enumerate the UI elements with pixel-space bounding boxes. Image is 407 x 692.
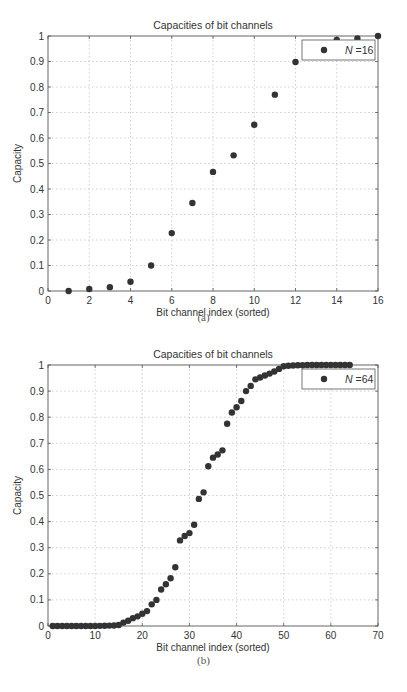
x-tick-label: 10 xyxy=(90,630,102,641)
data-point xyxy=(65,288,71,294)
data-point xyxy=(233,404,239,410)
y-tick-label: 0.9 xyxy=(30,386,44,397)
data-point xyxy=(189,200,195,206)
legend-marker xyxy=(321,376,327,382)
x-tick-label: 6 xyxy=(169,295,175,306)
chart-b: Capacities of bit channels01020304050607… xyxy=(12,348,384,653)
data-point xyxy=(230,152,236,158)
chart-title: Capacities of bit channels xyxy=(153,348,273,360)
y-axis-label: Capacity xyxy=(12,144,23,183)
y-tick-label: 0.9 xyxy=(30,56,44,67)
y-tick-label: 0.3 xyxy=(30,209,44,220)
y-tick-label: 0.4 xyxy=(30,516,44,527)
y-tick-label: 0.1 xyxy=(30,594,44,605)
legend-label: N =64 xyxy=(345,373,373,385)
data-point xyxy=(243,388,249,394)
legend: N =16 xyxy=(302,40,375,60)
data-point xyxy=(272,91,278,97)
y-tick-label: 0.7 xyxy=(30,107,44,118)
x-tick-label: 14 xyxy=(331,295,343,306)
x-tick-label: 8 xyxy=(210,295,216,306)
data-point xyxy=(347,362,353,368)
data-point xyxy=(144,608,150,614)
data-point xyxy=(107,284,113,290)
y-tick-label: 0.7 xyxy=(30,438,44,449)
y-tick-label: 0.3 xyxy=(30,542,44,553)
y-tick-label: 0.4 xyxy=(30,184,44,195)
x-tick-label: 12 xyxy=(290,295,302,306)
data-point xyxy=(86,286,92,292)
y-tick-label: 0.6 xyxy=(30,133,44,144)
x-axis-label: Bit channel index (sorted) xyxy=(156,642,269,653)
data-point xyxy=(186,530,192,536)
data-point xyxy=(148,262,154,268)
figure: Capacities of bit channels02468101214160… xyxy=(0,0,407,692)
y-tick-label: 1 xyxy=(38,31,44,42)
data-point xyxy=(191,522,197,528)
x-tick-label: 40 xyxy=(231,630,243,641)
y-tick-label: 0.2 xyxy=(30,568,44,579)
data-point xyxy=(210,169,216,175)
x-tick-label: 0 xyxy=(45,630,51,641)
y-tick-label: 0.5 xyxy=(30,158,44,169)
data-point xyxy=(163,581,169,587)
x-tick-label: 16 xyxy=(372,295,384,306)
caption-b: (b) xyxy=(0,654,407,666)
legend: N =64 xyxy=(302,369,375,389)
data-point xyxy=(177,537,183,543)
data-point xyxy=(224,421,230,427)
y-tick-label: 0 xyxy=(38,286,44,297)
x-tick-label: 70 xyxy=(372,630,384,641)
data-point xyxy=(169,230,175,236)
x-tick-label: 10 xyxy=(249,295,261,306)
data-point xyxy=(229,409,235,415)
legend-label: N =16 xyxy=(345,44,373,56)
x-tick-label: 30 xyxy=(184,630,196,641)
caption-a: (a) xyxy=(0,311,407,323)
x-tick-label: 20 xyxy=(137,630,149,641)
data-point xyxy=(158,586,164,592)
data-point xyxy=(248,383,254,389)
x-tick-label: 4 xyxy=(128,295,134,306)
y-tick-label: 0.8 xyxy=(30,82,44,93)
y-tick-label: 0.1 xyxy=(30,260,44,271)
y-tick-label: 0.5 xyxy=(30,490,44,501)
legend-marker xyxy=(321,47,327,53)
x-tick-label: 0 xyxy=(45,295,51,306)
data-point xyxy=(172,564,178,570)
data-point xyxy=(127,279,133,285)
x-tick-label: 60 xyxy=(325,630,337,641)
chart-a: Capacities of bit channels02468101214160… xyxy=(12,19,384,318)
y-axis-label: Capacity xyxy=(12,476,23,515)
x-tick-label: 50 xyxy=(278,630,290,641)
y-tick-label: 0.2 xyxy=(30,235,44,246)
x-tick-label: 2 xyxy=(86,295,92,306)
grid xyxy=(48,36,378,291)
y-tick-label: 0 xyxy=(38,621,44,632)
data-point xyxy=(200,489,206,495)
data-point xyxy=(251,122,257,128)
data-point xyxy=(238,398,244,404)
data-point xyxy=(292,59,298,65)
data-point xyxy=(375,33,381,39)
data-point xyxy=(167,575,173,581)
data-point xyxy=(205,463,211,469)
y-tick-label: 0.8 xyxy=(30,412,44,423)
y-tick-label: 0.6 xyxy=(30,464,44,475)
data-point xyxy=(153,597,159,603)
chart-title: Capacities of bit channels xyxy=(153,19,273,31)
data-point xyxy=(196,496,202,502)
y-tick-label: 1 xyxy=(38,360,44,371)
data-point xyxy=(149,601,155,607)
grid xyxy=(48,365,378,626)
data-point xyxy=(219,447,225,453)
